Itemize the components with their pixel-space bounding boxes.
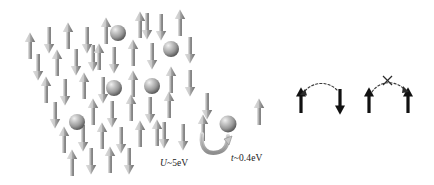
panel-hopping-forbidden: [364, 76, 413, 113]
spin-arrow-up: [63, 23, 73, 50]
figure-canvas: [0, 0, 434, 185]
spin-arrow-up: [88, 99, 98, 126]
hubbard-model-figure: U~5eV t~0.4eV: [0, 0, 434, 185]
spin-arrow-down: [44, 27, 54, 54]
spin-arrow-down: [147, 43, 157, 70]
spin-arrow-down: [50, 102, 60, 129]
hopping-arrow: [202, 134, 232, 153]
spin-arrow-up: [164, 92, 174, 119]
double-occupied-site: [88, 44, 104, 72]
spin-arrow-down: [185, 37, 195, 64]
spin-arrow-up: [175, 10, 185, 37]
spin-arrow-up: [128, 40, 138, 67]
spin-arrow-down: [33, 54, 43, 81]
spin-arrow-down: [71, 49, 81, 76]
spin-arrow-down: [185, 70, 195, 97]
hole-sphere: [163, 41, 179, 57]
t-energy-label: t~0.4eV: [231, 153, 262, 163]
u-energy-label: U~5eV: [160, 158, 188, 168]
spin-arrow-down: [107, 101, 117, 128]
spin-arrow-down: [109, 47, 119, 74]
spin-lattice: [25, 10, 264, 177]
t-value: ~0.4eV: [234, 153, 263, 163]
spin-arrow-up: [101, 18, 111, 45]
hole-sphere: [220, 116, 237, 133]
spin-arrow-down: [142, 13, 152, 40]
hole-sphere: [106, 80, 122, 96]
u-symbol: U: [160, 158, 167, 168]
hole-sphere: [69, 114, 85, 130]
hole-sphere: [144, 78, 160, 94]
spin-arrow-up: [105, 147, 115, 174]
dashed-hop-arc: [372, 83, 405, 92]
spin-arrow-down: [82, 27, 92, 54]
spin-arrow-up: [135, 121, 145, 148]
double-occupied-site: [152, 120, 169, 149]
spin-arrow-up: [254, 99, 264, 126]
dashed-hop-arc: [304, 83, 337, 92]
forbidden-cross-icon: [383, 76, 392, 85]
spin-arrow-up: [97, 123, 107, 150]
spin-arrow-down: [124, 148, 134, 175]
double-occupied-site: [135, 12, 152, 40]
hole-sphere: [110, 25, 126, 41]
black-arrow-down: [335, 89, 345, 115]
spin-arrow-up: [128, 71, 138, 98]
spin-arrow-down: [116, 127, 126, 154]
spin-arrow-down: [86, 148, 96, 175]
u-value: ~5eV: [167, 158, 188, 168]
spin-arrow-up: [41, 77, 51, 104]
spin-arrow-up: [52, 50, 62, 77]
spin-arrow-up: [59, 127, 69, 154]
spin-arrow-up: [166, 67, 176, 94]
spin-arrow-up: [67, 150, 77, 177]
spin-arrow-up: [79, 73, 89, 100]
spin-arrow-down: [178, 124, 188, 151]
spin-arrow-up: [25, 33, 35, 60]
spin-arrow-down: [145, 97, 155, 124]
panel-hopping-allowed: [296, 83, 345, 114]
spin-arrow-down: [156, 14, 166, 41]
spin-arrow-down: [60, 79, 70, 106]
spin-arrow-up: [135, 12, 145, 39]
spin-arrow-up: [126, 95, 136, 122]
